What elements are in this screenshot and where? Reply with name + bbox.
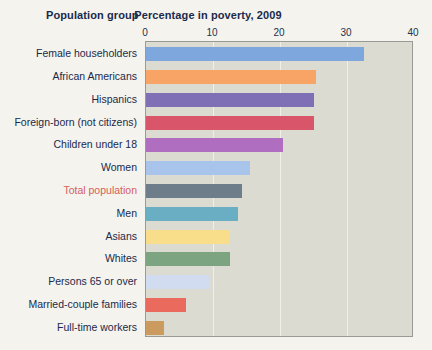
bar-row xyxy=(146,275,414,289)
bar-row xyxy=(146,252,414,266)
bar-row xyxy=(146,161,414,175)
x-tick-label: 40 xyxy=(407,27,418,38)
bar xyxy=(146,275,210,289)
bar xyxy=(146,321,164,335)
bar-row xyxy=(146,321,414,335)
category-label: African Americans xyxy=(52,69,137,83)
bar xyxy=(146,207,238,221)
plot-area xyxy=(145,41,413,337)
bar xyxy=(146,70,316,84)
category-label: Men xyxy=(117,206,137,220)
bar-row xyxy=(146,184,414,198)
category-label: Children under 18 xyxy=(54,137,137,151)
bar xyxy=(146,138,283,152)
category-label: Hispanics xyxy=(91,92,137,106)
bar-series xyxy=(146,42,412,336)
bar-row xyxy=(146,298,414,312)
bar-row xyxy=(146,47,414,61)
category-label: Persons 65 or over xyxy=(48,274,137,288)
category-label: Female householders xyxy=(36,46,137,60)
bar-row xyxy=(146,207,414,221)
bar-row xyxy=(146,70,414,84)
chart-header: Population group Percentage in poverty, … xyxy=(0,9,432,27)
category-label: Women xyxy=(101,160,137,174)
category-label: Full-time workers xyxy=(57,320,137,334)
bar xyxy=(146,161,250,175)
category-label: Total population xyxy=(63,183,137,197)
bar xyxy=(146,116,314,130)
population-group-title: Population group xyxy=(46,9,139,21)
bar xyxy=(146,252,230,266)
poverty-bar-chart: Population group Percentage in poverty, … xyxy=(0,0,432,350)
category-label: Foreign-born (not citizens) xyxy=(14,115,137,129)
chart-title: Percentage in poverty, 2009 xyxy=(134,9,281,21)
x-tick-label: 10 xyxy=(206,27,217,38)
bar-row xyxy=(146,93,414,107)
bar xyxy=(146,298,186,312)
bar xyxy=(146,47,364,61)
x-tick-label: 30 xyxy=(340,27,351,38)
x-axis-ticks: 010203040 xyxy=(0,27,432,41)
category-label: Whites xyxy=(105,251,137,265)
x-tick-label: 20 xyxy=(273,27,284,38)
category-label: Asians xyxy=(105,229,137,243)
category-labels: Female householdersAfrican AmericansHisp… xyxy=(0,41,141,337)
bar-row xyxy=(146,138,414,152)
bar xyxy=(146,230,230,244)
x-tick-label: 0 xyxy=(142,27,148,38)
bar-row xyxy=(146,230,414,244)
bar xyxy=(146,93,314,107)
bar-row xyxy=(146,116,414,130)
bar xyxy=(146,184,242,198)
category-label: Married-couple families xyxy=(28,297,137,311)
